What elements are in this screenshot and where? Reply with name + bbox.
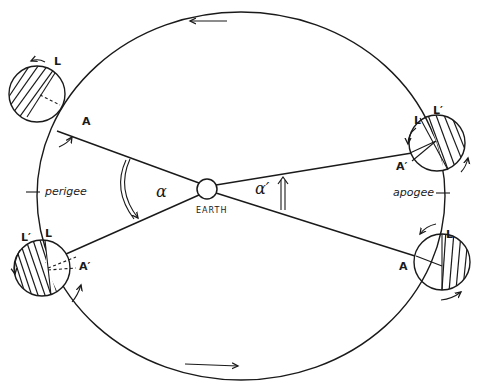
angle-alpha-arc bbox=[121, 159, 138, 219]
moon-lower-right-L: L bbox=[446, 228, 453, 241]
perigee-label: perigee bbox=[44, 185, 87, 198]
orbit-ellipse bbox=[37, 12, 445, 380]
moon-lower-right-A: A bbox=[399, 260, 408, 273]
orbit-arrow-bottom-icon bbox=[185, 364, 238, 366]
moon-upper-left-A: A bbox=[82, 115, 91, 128]
moon-lower-left-L-prime: L′ bbox=[21, 231, 31, 244]
moon-upper-left-L: L bbox=[54, 55, 61, 68]
moon-upper-right-A-prime: A′ bbox=[396, 160, 408, 173]
angle-alpha-prime-arc bbox=[278, 177, 288, 210]
moon-lower-left-L: L bbox=[45, 227, 52, 240]
moon-lower-left-A-prime: A′ bbox=[79, 260, 91, 273]
sight-lines bbox=[57, 131, 415, 256]
moon-upper-left bbox=[0, 0, 80, 150]
moon-upper-right-L: L bbox=[414, 114, 421, 127]
angle-alpha-prime-label: α′ bbox=[255, 179, 270, 198]
apogee-label: apogee bbox=[393, 186, 434, 199]
angle-alpha-label: α bbox=[156, 182, 167, 201]
earth-label: EARTH bbox=[196, 206, 227, 215]
moon-lower-right bbox=[414, 224, 474, 300]
libration-diagram: EARTH α α′ perigee apogee bbox=[0, 0, 485, 389]
moon-upper-right-L-prime: L′ bbox=[433, 104, 443, 117]
earth bbox=[197, 179, 217, 199]
